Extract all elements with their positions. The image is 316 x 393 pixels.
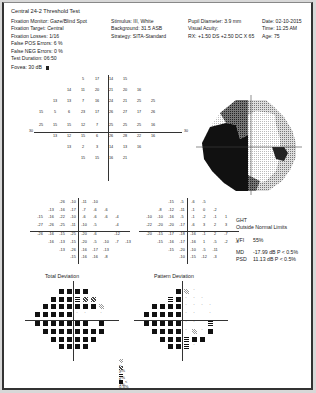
value-cell: -11 — [68, 223, 78, 227]
value-cell: -11 — [210, 248, 220, 252]
total-deviation-plot — [35, 289, 109, 353]
value-cell: -12 — [199, 255, 209, 259]
value-cell: -13 — [123, 240, 133, 244]
probability-symbol — [59, 304, 64, 309]
probability-symbol — [83, 297, 88, 302]
probability-symbol — [168, 297, 173, 302]
value-cell: -26 — [68, 248, 78, 252]
probability-symbol — [75, 337, 80, 342]
probability-symbol — [160, 321, 165, 326]
probability-symbol — [51, 297, 56, 302]
value-cell: -7 — [221, 232, 231, 236]
psd-label: PSD — [236, 256, 247, 263]
probability-symbol — [59, 321, 64, 326]
age: Age: 75 — [262, 33, 302, 40]
header-col-date: Date: 02-10-2015 Time: 11:25 AM Age: 75 — [262, 18, 302, 40]
value-cell: 3 — [199, 223, 209, 227]
value-cell: 21 — [106, 88, 116, 92]
fovea-marker-icon — [46, 66, 49, 70]
probability-symbol — [200, 337, 205, 342]
value-cell: -13 — [57, 240, 67, 244]
value-cell: -20 — [155, 223, 165, 227]
value-cell: -15 — [188, 255, 198, 259]
probability-symbol — [176, 344, 181, 349]
value-cell: -5 — [90, 223, 100, 227]
value-cell: -17 — [177, 240, 187, 244]
probability-symbol — [176, 329, 181, 334]
probability-symbol — [67, 321, 72, 326]
probability-symbol — [59, 297, 64, 302]
value-cell: 25 — [134, 123, 144, 127]
value-cell: -5 — [177, 200, 187, 204]
value-cell: 27 — [120, 110, 130, 114]
value-cell: -10 — [177, 255, 187, 259]
value-cell: -16 — [188, 240, 198, 244]
value-cell: 11 — [78, 88, 88, 92]
pattern-deviation-values: -15-5-6-5-8-12-11-10-2-10-10-16-5-1-2-11… — [139, 198, 239, 264]
value-cell: 13 — [64, 99, 74, 103]
probability-symbol — [83, 337, 88, 342]
value-cell: 5 — [78, 77, 88, 81]
probability-symbol — [152, 304, 157, 309]
value-cell: 0 — [199, 208, 209, 212]
probability-symbol — [160, 304, 165, 309]
legend-light-icon — [119, 359, 123, 363]
probability-symbol — [168, 329, 173, 334]
value-cell: -20 — [166, 223, 176, 227]
probability-symbol — [168, 312, 173, 317]
value-cell: -18 — [177, 232, 187, 236]
value-cell: 26 — [106, 110, 116, 114]
probability-symbol — [152, 312, 157, 317]
value-cell: -10 — [101, 240, 111, 244]
probability-symbol — [176, 304, 181, 309]
value-cell: 7 — [92, 123, 102, 127]
probability-symbol — [67, 304, 72, 309]
value-cell: -10 — [68, 215, 78, 219]
value-cell: -15 — [166, 200, 176, 204]
value-cell: -5 — [90, 240, 100, 244]
stimulus: Stimulus: III, White — [111, 18, 166, 25]
value-cell: -10 — [155, 215, 165, 219]
value-cell: 3 — [221, 223, 231, 227]
vfi-value: 55% — [253, 237, 263, 244]
time: Time: 11:25 AM — [262, 25, 302, 32]
probability-symbol — [51, 321, 56, 326]
value-cell: 14 — [106, 145, 116, 149]
value-cell: -7 — [79, 208, 89, 212]
value-cell: 21 — [120, 99, 130, 103]
value-cell: -11 — [79, 200, 89, 204]
value-cell: -6 — [90, 232, 100, 236]
probability-symbol — [168, 337, 173, 342]
fixation-target: Fixation Target: Central — [11, 25, 87, 32]
value-cell: 3 — [92, 145, 102, 149]
value-cell: 15 — [92, 156, 102, 160]
value-cell: 2 — [78, 145, 88, 149]
probability-symbol — [67, 344, 72, 349]
probability-symbol — [176, 289, 181, 294]
probability-symbol — [51, 304, 56, 309]
value-cell: -10 — [68, 200, 78, 204]
fixation-monitor: Fixation Monitor: Gaze/Blind Spot — [11, 18, 87, 25]
value-cell: -20 — [177, 248, 187, 252]
fovea-value: Fovea: 30 dB — [11, 64, 49, 71]
probability-symbol — [75, 329, 80, 334]
probability-symbol — [43, 304, 48, 309]
value-cell: 16 — [148, 123, 158, 127]
value-cell: 26 — [148, 110, 158, 114]
value-cell: -27 — [35, 223, 45, 227]
axis-label-right: 30 — [184, 129, 188, 133]
value-cell: 6 — [64, 110, 74, 114]
threshold-horizontal-axis — [34, 132, 182, 133]
false-neg-errors: False NEG Errors: 0 % — [11, 48, 87, 55]
value-cell: -10 — [144, 215, 154, 219]
value-cell: -16 — [90, 255, 100, 259]
total-deviation-values: -26-10-11-10-13-16-17-7-6-6-15-16-22-10-… — [30, 198, 130, 264]
value-cell: 16 — [134, 88, 144, 92]
probability-symbol — [168, 304, 173, 309]
probability-symbol — [152, 321, 157, 326]
value-cell: 14 — [106, 77, 116, 81]
value-cell: -8 — [155, 208, 165, 212]
probability-symbol — [59, 289, 64, 294]
probability-symbol — [91, 329, 96, 334]
value-cell: 16 — [134, 145, 144, 149]
